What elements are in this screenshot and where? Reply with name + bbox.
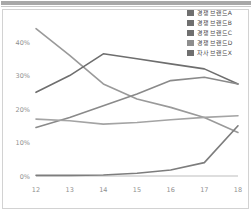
y-tick-20%: 20% [16, 106, 30, 114]
legend-swatch-icon-0 [187, 10, 194, 16]
chart-screenshot: 0%10%20%30%40% 12131415161718 경쟁 브랜드A경쟁 … [0, 0, 252, 212]
legend-label-3: 경쟁 브랜드D [197, 39, 232, 46]
legend-item-2[interactable]: 경쟁 브랜드C [187, 28, 249, 37]
legend-swatch-icon-3 [187, 40, 194, 46]
y-axis-tick-labels: 0%10%20%30%40% [16, 39, 30, 181]
series-line-1 [36, 54, 238, 93]
series-line-4 [36, 126, 238, 176]
series-line-3 [36, 116, 238, 124]
legend-item-3[interactable]: 경쟁 브랜드D [187, 38, 249, 47]
y-tick-10%: 10% [16, 139, 30, 147]
legend-swatch-icon-4 [187, 50, 194, 56]
legend-label-0: 경쟁 브랜드A [197, 9, 232, 16]
x-tick-17: 17 [200, 186, 208, 194]
x-tick-18: 18 [234, 186, 242, 194]
chart-legend: 경쟁 브랜드A경쟁 브랜드B경쟁 브랜드C경쟁 브랜드D자사 브랜드X [187, 8, 249, 57]
y-tick-40%: 40% [16, 39, 30, 47]
legend-item-0[interactable]: 경쟁 브랜드A [187, 8, 249, 17]
legend-item-1[interactable]: 경쟁 브랜드B [187, 18, 249, 27]
legend-label-4: 자사 브랜드X [197, 49, 232, 56]
legend-swatch-icon-1 [187, 20, 194, 26]
x-tick-12: 12 [32, 186, 40, 194]
legend-swatch-icon-2 [187, 30, 194, 36]
legend-label-2: 경쟁 브랜드C [197, 29, 232, 36]
x-tick-14: 14 [99, 186, 107, 194]
x-tick-15: 15 [133, 186, 141, 194]
x-tick-16: 16 [167, 186, 175, 194]
y-tick-0%: 0% [20, 173, 30, 181]
x-axis-tick-labels: 12131415161718 [32, 186, 242, 194]
x-tick-13: 13 [66, 186, 74, 194]
legend-item-4[interactable]: 자사 브랜드X [187, 48, 249, 57]
legend-label-1: 경쟁 브랜드B [197, 19, 232, 26]
y-tick-30%: 30% [16, 72, 30, 80]
